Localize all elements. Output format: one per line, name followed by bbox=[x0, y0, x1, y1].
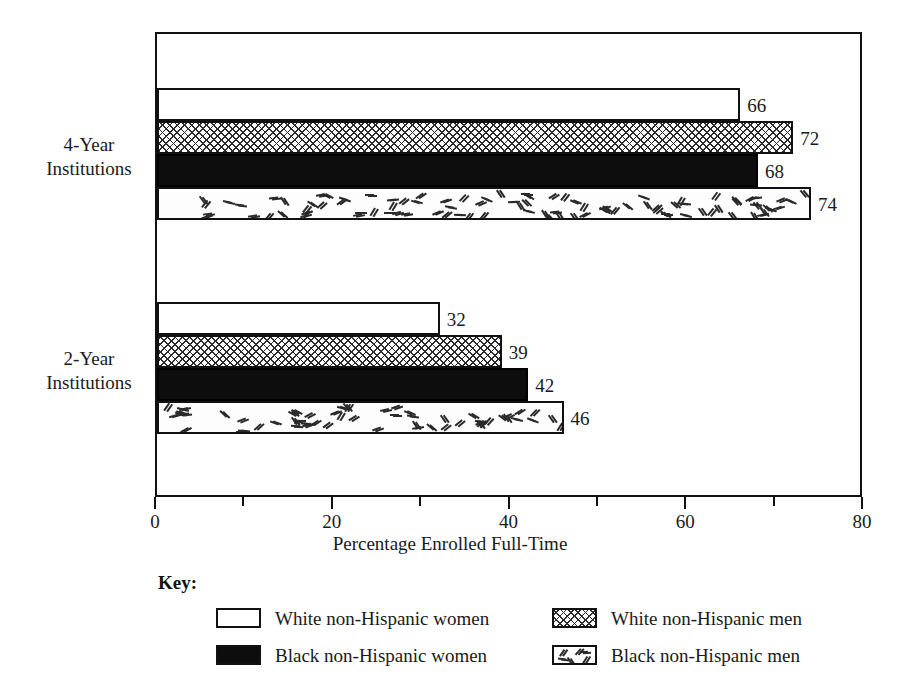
bar-value-label: 32 bbox=[447, 309, 466, 328]
legend-swatch-solid-white-icon bbox=[216, 608, 261, 628]
x-axis-minor-tick bbox=[773, 497, 775, 506]
x-axis-tick-label: 40 bbox=[499, 512, 518, 531]
bar-2year-black-women[interactable] bbox=[157, 368, 528, 401]
x-axis-major-tick bbox=[684, 497, 686, 509]
category-label-line1: 4-Year bbox=[28, 133, 150, 157]
bar-4year-white-women[interactable] bbox=[157, 88, 740, 121]
legend-item-label: Black non-Hispanic women bbox=[275, 646, 487, 665]
x-axis-major-tick bbox=[861, 497, 863, 509]
bar-value-label: 42 bbox=[535, 375, 554, 394]
x-axis-minor-tick bbox=[419, 497, 421, 506]
legend-swatch-dashes-icon bbox=[552, 645, 597, 665]
bar-value-label: 68 bbox=[765, 161, 784, 180]
legend-item-label: White non-Hispanic women bbox=[275, 609, 489, 628]
bar-value-label: 74 bbox=[818, 194, 837, 213]
bar-value-label: 46 bbox=[571, 408, 590, 427]
x-axis-major-tick bbox=[154, 497, 156, 509]
legend-item-black-non-hispanic-men[interactable]: Black non-Hispanic men bbox=[552, 645, 800, 665]
category-label-2-year-institutions: 2-Year Institutions bbox=[28, 347, 150, 395]
bar-4year-black-men[interactable] bbox=[157, 187, 811, 220]
legend-item-white-non-hispanic-women[interactable]: White non-Hispanic women bbox=[216, 608, 489, 628]
x-axis-title: Percentage Enrolled Full-Time bbox=[0, 533, 900, 555]
bar-2year-white-men[interactable] bbox=[157, 335, 502, 368]
category-label-line2: Institutions bbox=[28, 157, 150, 181]
legend-item-black-non-hispanic-women[interactable]: Black non-Hispanic women bbox=[216, 645, 487, 665]
legend-swatch-crosshatch-icon bbox=[552, 608, 597, 628]
legend-item-label: Black non-Hispanic men bbox=[611, 646, 800, 665]
bar-2year-black-men[interactable] bbox=[157, 401, 564, 434]
x-axis-major-tick bbox=[331, 497, 333, 509]
x-axis-major-tick bbox=[508, 497, 510, 509]
category-label-line1: 2-Year bbox=[28, 347, 150, 371]
x-axis-minor-tick bbox=[242, 497, 244, 506]
bar-value-label: 72 bbox=[800, 128, 819, 147]
x-axis-minor-tick bbox=[596, 497, 598, 506]
x-axis-tick-label: 80 bbox=[853, 512, 872, 531]
bar-4year-black-women[interactable] bbox=[157, 154, 758, 187]
x-axis-tick-label: 20 bbox=[322, 512, 341, 531]
legend-title: Key: bbox=[158, 572, 197, 594]
legend-item-label: White non-Hispanic men bbox=[611, 609, 802, 628]
x-axis-tick-label: 0 bbox=[150, 512, 160, 531]
legend-item-white-non-hispanic-men[interactable]: White non-Hispanic men bbox=[552, 608, 802, 628]
bar-value-label: 39 bbox=[509, 342, 528, 361]
legend-swatch-black-icon bbox=[216, 645, 261, 665]
category-label-4-year-institutions: 4-Year Institutions bbox=[28, 133, 150, 181]
x-axis-tick-label: 60 bbox=[676, 512, 695, 531]
chart-plot-frame: 66 72 68 74 32 39 bbox=[155, 32, 862, 497]
chart-plot-area: 66 72 68 74 32 39 bbox=[157, 34, 860, 495]
bar-4year-white-men[interactable] bbox=[157, 121, 793, 154]
category-label-line2: Institutions bbox=[28, 371, 150, 395]
bar-value-label: 66 bbox=[747, 95, 766, 114]
bar-2year-white-women[interactable] bbox=[157, 302, 440, 335]
